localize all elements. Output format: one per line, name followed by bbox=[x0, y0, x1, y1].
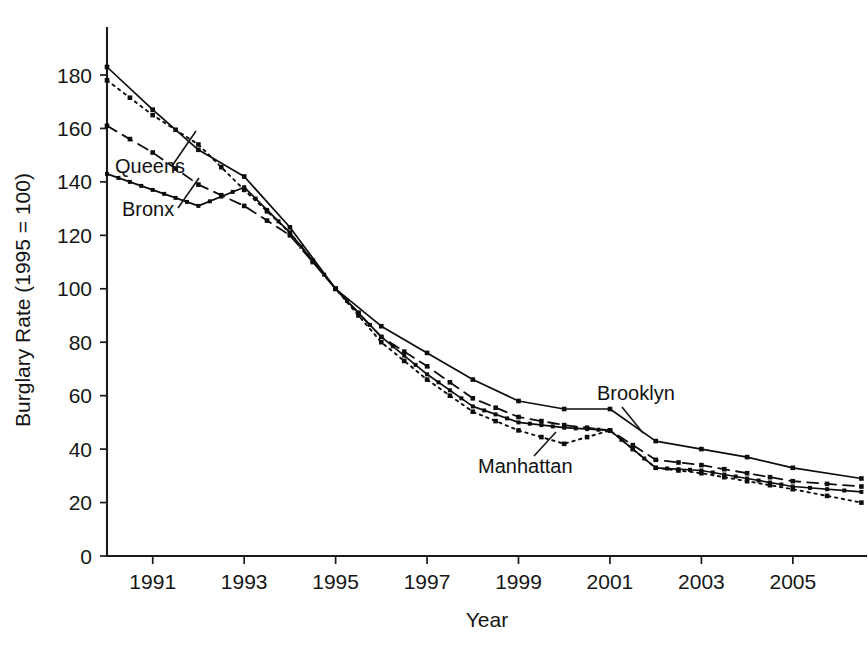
data-point-marker bbox=[745, 477, 749, 481]
data-point-marker bbox=[105, 124, 110, 129]
data-point-marker bbox=[517, 420, 521, 424]
data-point-marker bbox=[379, 335, 383, 339]
data-point-marker bbox=[493, 419, 498, 424]
data-point-marker bbox=[562, 426, 566, 430]
y-axis-ticks: 020406080100120140160180 bbox=[57, 64, 107, 568]
data-point-marker bbox=[219, 165, 224, 170]
data-point-marker bbox=[482, 408, 486, 412]
data-point-marker bbox=[471, 409, 476, 414]
data-point-marker bbox=[791, 466, 796, 471]
x-tick-label: 1991 bbox=[129, 570, 176, 593]
data-point-marker bbox=[585, 427, 589, 431]
y-tick-label: 100 bbox=[57, 277, 92, 300]
data-point-marker bbox=[859, 484, 864, 489]
data-point-marker bbox=[311, 259, 315, 263]
data-point-marker bbox=[196, 182, 201, 187]
x-axis-title: Year bbox=[466, 608, 508, 631]
data-point-marker bbox=[597, 428, 601, 432]
data-point-marker bbox=[414, 363, 418, 367]
data-point-marker bbox=[574, 426, 578, 430]
data-point-marker bbox=[425, 351, 430, 356]
data-point-marker bbox=[539, 435, 544, 440]
data-point-marker bbox=[791, 479, 796, 484]
x-axis-ticks: 19911993199519971999200120032005 bbox=[129, 556, 816, 593]
data-point-marker bbox=[505, 416, 509, 420]
y-axis-title: Burglary Rate (1995 = 100) bbox=[11, 173, 34, 427]
annotation-label-bronx: Bronx bbox=[122, 198, 174, 220]
data-point-marker bbox=[242, 204, 247, 209]
data-point-marker bbox=[745, 471, 750, 476]
data-point-marker bbox=[402, 359, 407, 364]
x-tick-label: 2001 bbox=[587, 570, 634, 593]
data-point-marker bbox=[265, 208, 269, 212]
data-point-marker bbox=[448, 393, 453, 398]
data-point-marker bbox=[128, 95, 133, 100]
x-tick-label: 2005 bbox=[769, 570, 816, 593]
data-point-marker bbox=[539, 419, 544, 424]
data-point-marker bbox=[299, 245, 303, 249]
data-point-marker bbox=[642, 457, 646, 461]
data-point-marker bbox=[357, 311, 361, 315]
data-point-marker bbox=[608, 407, 613, 412]
data-point-marker bbox=[425, 372, 429, 376]
annotation-manhattan: Manhattan bbox=[478, 432, 573, 477]
y-tick-label: 60 bbox=[69, 384, 92, 407]
data-point-marker bbox=[516, 399, 521, 404]
series-line-manhattan bbox=[107, 80, 861, 502]
data-point-marker bbox=[196, 148, 201, 153]
data-point-marker bbox=[391, 344, 395, 348]
data-point-marker bbox=[459, 396, 463, 400]
data-point-marker bbox=[425, 364, 430, 369]
annotation-leader-line bbox=[534, 432, 556, 456]
data-point-marker bbox=[539, 423, 543, 427]
data-point-marker bbox=[699, 469, 703, 473]
data-point-marker bbox=[231, 190, 235, 194]
data-point-marker bbox=[151, 188, 155, 192]
data-point-marker bbox=[288, 231, 292, 235]
data-point-marker bbox=[791, 485, 795, 489]
data-point-marker bbox=[208, 199, 212, 203]
series-manhattan bbox=[105, 78, 864, 505]
data-point-marker bbox=[711, 471, 715, 475]
y-tick-label: 0 bbox=[80, 545, 92, 568]
data-point-marker bbox=[734, 475, 738, 479]
series-line-bronx bbox=[107, 174, 861, 492]
data-point-marker bbox=[688, 468, 692, 472]
data-point-marker bbox=[699, 463, 704, 468]
data-point-marker bbox=[254, 197, 258, 201]
data-point-marker bbox=[779, 483, 783, 487]
data-point-marker bbox=[653, 458, 658, 463]
data-point-marker bbox=[128, 137, 133, 142]
y-tick-label: 40 bbox=[69, 438, 92, 461]
data-point-marker bbox=[277, 219, 281, 223]
data-point-marker bbox=[516, 415, 521, 420]
data-point-marker bbox=[265, 218, 270, 223]
burglary-rate-line-chart: 020406080100120140160180 199119931995199… bbox=[0, 0, 868, 645]
y-tick-label: 120 bbox=[57, 224, 92, 247]
data-point-marker bbox=[196, 142, 201, 147]
data-point-marker bbox=[768, 475, 773, 480]
series-bronx bbox=[105, 172, 863, 494]
data-point-marker bbox=[162, 192, 166, 196]
data-point-marker bbox=[859, 490, 863, 494]
y-tick-label: 140 bbox=[57, 170, 92, 193]
data-point-marker bbox=[150, 107, 155, 112]
data-series-layer bbox=[105, 65, 864, 505]
data-point-marker bbox=[653, 439, 658, 444]
data-point-marker bbox=[425, 377, 430, 382]
data-point-marker bbox=[768, 481, 772, 485]
data-point-marker bbox=[196, 204, 200, 208]
data-point-marker bbox=[562, 407, 567, 412]
data-point-marker bbox=[494, 412, 498, 416]
y-tick-label: 80 bbox=[69, 331, 92, 354]
x-tick-label: 1993 bbox=[221, 570, 268, 593]
data-point-marker bbox=[379, 324, 384, 329]
data-point-marker bbox=[677, 467, 681, 471]
data-point-marker bbox=[448, 388, 452, 392]
x-tick-label: 2003 bbox=[678, 570, 725, 593]
data-point-marker bbox=[585, 435, 590, 440]
data-point-marker bbox=[242, 185, 246, 189]
data-point-marker bbox=[471, 404, 475, 408]
data-point-marker bbox=[562, 442, 567, 447]
data-point-marker bbox=[654, 466, 658, 470]
